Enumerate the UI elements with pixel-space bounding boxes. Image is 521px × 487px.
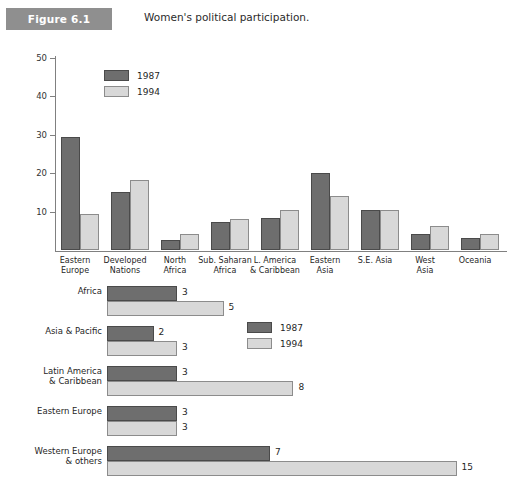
y-tick-mark	[50, 96, 55, 97]
figure-header: Figure 6.1 Women's political participati…	[0, 8, 521, 30]
horizontal-bar-group: Western Europe& others715	[0, 446, 521, 480]
horizontal-bar-label: Asia & Pacific	[0, 326, 102, 336]
horizontal-bar-value-1987: 3	[182, 287, 188, 297]
bar-1987	[461, 238, 480, 250]
horizontal-bar-value-1987: 2	[159, 327, 165, 337]
horizontal-bar-1987	[107, 406, 177, 421]
bar-group	[461, 234, 499, 250]
horizontal-bar-1994	[107, 421, 177, 436]
y-tick-mark	[50, 135, 55, 136]
figure-page: Figure 6.1 Women's political participati…	[0, 0, 521, 487]
bar-group	[361, 210, 399, 250]
horizontal-bar-value-1987: 3	[182, 367, 188, 377]
horizontal-bar-group: Africa35	[0, 286, 521, 320]
bar-1994	[230, 219, 249, 250]
horizontal-bar-label: Latin America& Caribbean	[0, 366, 102, 386]
horizontal-bar-value-1987: 7	[275, 447, 281, 457]
horizontal-bar-label: Western Europe& others	[0, 446, 102, 466]
bar-1994	[380, 210, 399, 250]
horizontal-bar-chart: 1987 1994 Africa35Asia & Pacific23Latin …	[0, 284, 521, 487]
horizontal-bar-1994	[107, 461, 457, 476]
horizontal-bar-group: Eastern Europe33	[0, 406, 521, 440]
horizontal-bar-group: Asia & Pacific23	[0, 326, 521, 360]
bar-1994	[80, 214, 99, 250]
y-tick-mark	[50, 212, 55, 213]
bar-1987	[211, 222, 230, 250]
bar-group	[411, 226, 449, 250]
bar-1994	[430, 226, 449, 250]
bar-group	[61, 137, 99, 250]
horizontal-bar-value-1994: 5	[229, 302, 235, 312]
horizontal-bar-1994	[107, 341, 177, 356]
y-tick-label: 20	[21, 168, 47, 178]
horizontal-bar-label: Eastern Europe	[0, 406, 102, 416]
bar-group	[261, 210, 299, 250]
bar-group	[211, 219, 249, 250]
bar-1987	[261, 218, 280, 250]
y-tick-mark	[50, 173, 55, 174]
bar-1994	[180, 234, 199, 250]
bar-1987	[111, 192, 130, 250]
bar-1994	[330, 196, 349, 250]
bar-1987	[361, 210, 380, 250]
vertical-bar-chart: 1020304050 1987 1994 EasternEuropeDevelo…	[0, 46, 521, 278]
figure-number-badge: Figure 6.1	[6, 8, 112, 30]
figure-caption: Women's political participation.	[144, 11, 309, 23]
horizontal-bar-1987	[107, 366, 177, 381]
horizontal-bar-group: Latin America& Caribbean38	[0, 366, 521, 400]
bar-1994	[280, 210, 299, 250]
horizontal-bar-label: Africa	[0, 286, 102, 296]
vertical-plot-area	[56, 58, 506, 250]
bar-group	[311, 173, 349, 250]
x-axis-label: Oceania	[438, 256, 512, 266]
y-tick-label: 10	[21, 207, 47, 217]
bar-1987	[311, 173, 330, 250]
y-tick-label: 40	[21, 91, 47, 101]
horizontal-bar-1987	[107, 326, 154, 341]
bar-group	[161, 234, 199, 250]
horizontal-bar-value-1994: 15	[462, 462, 473, 472]
y-tick-mark	[50, 58, 55, 59]
y-tick-label: 50	[21, 53, 47, 63]
horizontal-bar-value-1987: 3	[182, 407, 188, 417]
bar-1987	[61, 137, 80, 250]
horizontal-bar-1994	[107, 301, 224, 316]
bar-1994	[480, 234, 499, 250]
bar-1987	[161, 240, 180, 250]
bar-group	[111, 180, 149, 250]
horizontal-bar-value-1994: 8	[298, 382, 304, 392]
horizontal-bar-value-1994: 3	[182, 422, 188, 432]
x-axis-line	[55, 251, 507, 252]
horizontal-bar-value-1994: 3	[182, 342, 188, 352]
horizontal-bar-1987	[107, 446, 270, 461]
bar-1987	[411, 234, 430, 251]
bar-1994	[130, 180, 149, 250]
horizontal-bar-1994	[107, 381, 293, 396]
y-tick-label: 30	[21, 130, 47, 140]
horizontal-bar-1987	[107, 286, 177, 301]
